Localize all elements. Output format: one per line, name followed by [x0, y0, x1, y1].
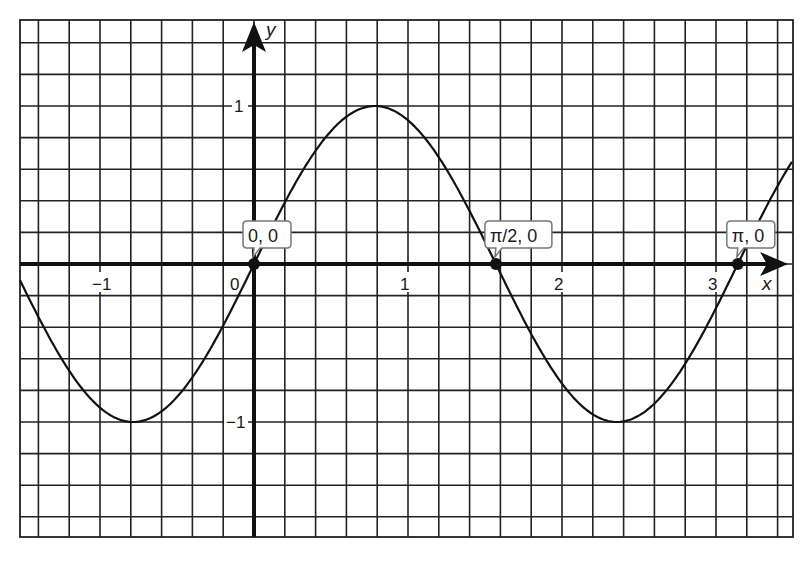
point-label: π, 0	[732, 226, 764, 246]
sine-graph: x y −101231−1 0, 0π/2, 0π, 0	[0, 0, 807, 562]
y-axis-label: y	[264, 19, 277, 40]
point-marker	[490, 258, 502, 270]
x-tick-label: 3	[708, 275, 717, 294]
x-axis-label: x	[761, 273, 773, 294]
x-tick-label: 1	[400, 275, 409, 294]
x-tick-label: −1	[92, 275, 111, 294]
y-tick-label: 1	[234, 97, 243, 116]
point-label: 0, 0	[248, 226, 278, 246]
point-marker	[248, 258, 260, 270]
point-label: π/2, 0	[490, 226, 537, 246]
y-tick-label: −1	[226, 413, 245, 432]
point-marker	[732, 258, 744, 270]
x-tick-label: 2	[554, 275, 563, 294]
x-tick-label: 0	[230, 275, 239, 294]
